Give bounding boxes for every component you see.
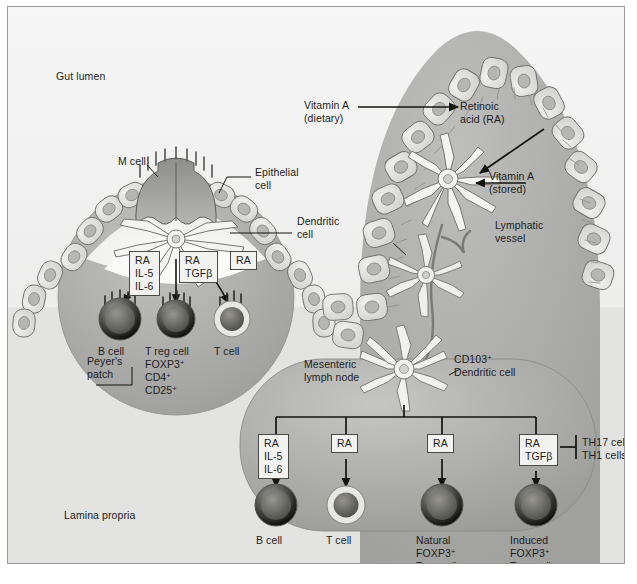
mediator-box-ln-b: RAIL-5IL-6 [258,434,289,479]
region-label-mesenteric-lymph-node: Mesentericlymph node [304,358,359,384]
callout-epithelial-cell: Epithelialcell [255,166,299,192]
cell-label-ln-natural-treg: NaturalFOXP3+Treg cell [416,534,457,564]
cell-label-pp-t-cell: T cell [214,345,240,358]
callout-vitamin-a-dietary: Vitamin A(dietary) [304,99,349,125]
mediator-box-pp-b: RAIL-5IL-6 [129,251,160,296]
mediator-box-pp-treg: RATGFβ [179,251,218,283]
callout-dendritic-cell: Dendriticcell [297,215,339,241]
cell-label-pp-treg-cell: T reg cellFOXP3+CD4+CD25+ [145,345,189,397]
mediator-box-ln-t: RA [331,434,358,453]
figure-canvas: Gut lumen Lamina propria Peyer'spatch Me… [0,0,637,584]
cell-label-pp-b-cell: B cell [98,345,124,358]
callout-vitamin-a-stored: Vitamin A(stored) [489,170,534,196]
mediator-box-ln-ntreg: RA [427,434,454,453]
cell-label-ln-t-cell: T cell [326,534,352,547]
inhibited-th-cells: TH17 cellsTH1 cells [582,436,625,462]
m-cell-graphic [136,147,216,225]
region-label-lamina-propria: Lamina propria [64,509,135,522]
callout-m-cell: M cell [118,155,146,168]
mediator-box-pp-t: RA [230,251,257,270]
callout-retinoic-acid: Retinoicacid (RA) [460,100,505,126]
region-label-gut-lumen: Gut lumen [56,70,105,83]
cell-label-ln-b-cell: B cell [256,534,282,547]
cell-label-ln-induced-treg: InducedFOXP3+Treg cell [510,534,551,564]
callout-lymphatic-vessel: Lymphaticvessel [495,219,543,245]
mediator-box-ln-itreg: RATGFβ [519,434,558,466]
diagram-graphics [8,7,624,563]
region-label-peyers-patch: Peyer'spatch [87,355,122,381]
callout-cd103-dendritic-cell: CD103+Dendritic cell [454,353,516,379]
figure-frame: Gut lumen Lamina propria Peyer'spatch Me… [7,6,625,564]
